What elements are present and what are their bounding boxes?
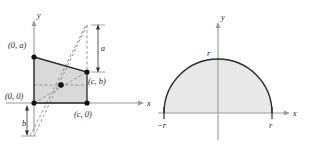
vertex-point-0-a	[31, 54, 36, 59]
vertex-label-c-b: (c, b)	[88, 76, 106, 86]
figure-pair: y x a b	[0, 0, 312, 146]
vertex-point-c-b	[84, 69, 89, 74]
tick-label-y-r: r	[207, 48, 211, 58]
left-figure-panel: y x a b	[0, 0, 156, 146]
tick-label-neg-r: −r	[157, 120, 167, 130]
y-axis-label: y	[36, 11, 41, 20]
quadrilateral-centroid-figure: y x a b	[0, 0, 156, 146]
vertex-point-c-0	[84, 100, 89, 105]
x-axis-label: x	[292, 109, 297, 118]
centroid-point	[58, 82, 64, 88]
dimension-b-arrowhead-bottom	[25, 131, 29, 137]
tick-label-pos-r: r	[269, 120, 273, 130]
dimension-b-arrowhead-top	[25, 105, 29, 111]
dimension-b-label: b	[22, 119, 26, 128]
vertex-label-origin: (0, 0)	[5, 91, 24, 101]
vertex-label-c-0: (c, 0)	[74, 109, 92, 119]
right-figure-panel: y x −r r r	[156, 0, 312, 146]
x-axis-arrowhead	[138, 101, 144, 106]
dimension-a-label: a	[101, 44, 105, 53]
x-axis-arrowhead	[284, 111, 290, 116]
x-axis-label: x	[146, 99, 151, 108]
vertex-label-0-a: (0, a)	[8, 40, 27, 50]
y-axis-label: y	[220, 13, 225, 22]
y-axis-arrowhead	[32, 20, 37, 26]
y-axis-arrowhead	[216, 22, 221, 28]
semicircle-figure: y x −r r r	[156, 0, 312, 146]
vertex-point-origin	[31, 100, 36, 105]
